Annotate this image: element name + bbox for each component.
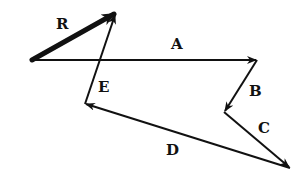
label-a: A bbox=[171, 37, 183, 52]
vector-c bbox=[224, 112, 289, 167]
label-c: C bbox=[258, 121, 270, 136]
label-r: R bbox=[56, 17, 68, 32]
label-e: E bbox=[98, 80, 109, 95]
label-d: D bbox=[166, 143, 179, 158]
label-b: B bbox=[249, 84, 262, 99]
